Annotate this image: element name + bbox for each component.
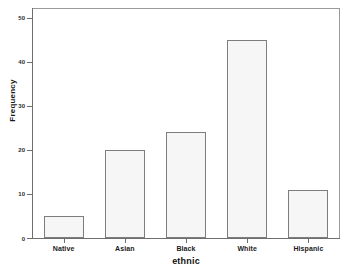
x-axis-tick-label: Native [53, 245, 75, 252]
bars-layer [33, 9, 339, 238]
bar-chart: Frequency 01020304050 NativeAsianBlackWh… [0, 0, 355, 272]
y-axis-tick-label: 0 [22, 236, 25, 242]
y-axis-tick-label: 40 [18, 59, 25, 65]
x-axis-tick [125, 239, 126, 243]
y-axis-tick-label: 50 [18, 15, 25, 21]
bar-slot [94, 9, 155, 238]
bar-slot [33, 9, 94, 238]
x-axis-tick-label: Black [176, 245, 195, 252]
x-axis-tick-label: Asian [115, 245, 135, 252]
x-axis-title: ethnic [32, 256, 340, 266]
bar[interactable] [288, 190, 328, 238]
x-axis-tick-label: Hispanic [293, 245, 323, 252]
bar-slot [155, 9, 216, 238]
y-axis-tick: 40 [27, 62, 32, 63]
y-axis-tick: 20 [27, 150, 32, 151]
bar[interactable] [105, 150, 145, 238]
x-axis-tick [64, 239, 65, 243]
x-axis-tick [186, 239, 187, 243]
bar[interactable] [166, 132, 206, 238]
bar-slot [278, 9, 339, 238]
y-axis-tick: 0 [27, 238, 32, 239]
bar[interactable] [44, 216, 84, 238]
bar[interactable] [227, 40, 267, 238]
x-axis-tick [308, 239, 309, 243]
y-axis-tick-label: 20 [18, 147, 25, 153]
y-axis-tick: 50 [27, 18, 32, 19]
y-axis-title: Frequency [8, 61, 17, 141]
x-axis-tick [247, 239, 248, 243]
y-axis-tick-label: 10 [18, 191, 25, 197]
y-axis-tick: 10 [27, 194, 32, 195]
y-axis-tick: 30 [27, 106, 32, 107]
bar-slot [217, 9, 278, 238]
x-axis-tick-label: White [237, 245, 257, 252]
y-axis-tick-label: 30 [18, 103, 25, 109]
